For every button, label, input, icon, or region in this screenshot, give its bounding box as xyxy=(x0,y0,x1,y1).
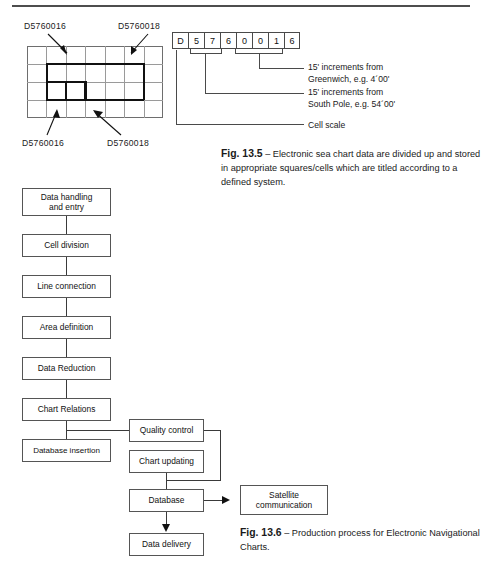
heavy-right-edge xyxy=(143,63,145,100)
arrowhead-to-satellite xyxy=(222,496,230,504)
annotation-southpole: 15' increments from South Pole, e.g. 54´… xyxy=(308,86,395,111)
cell-code-boxes: D 5 7 6 0 0 1 6 xyxy=(172,32,300,49)
flow-node-data-reduction-label: Data Reduction xyxy=(38,363,96,374)
heavy-bottom-edge xyxy=(46,99,143,101)
flow-node-satellite-communication[interactable]: Satellite communication xyxy=(240,485,328,515)
code-char-4: 0 xyxy=(236,32,252,49)
fig-13-6-caption: Fig. 13.6 – Production process for Elect… xyxy=(240,525,480,555)
flow-node-cell-division-label: Cell division xyxy=(44,240,89,251)
flow-node-line-connection[interactable]: Line connection xyxy=(22,275,111,298)
annotation-southpole-line1: 15' increments from xyxy=(308,86,395,98)
callout-leader-bottom-right xyxy=(78,105,148,141)
flow-node-area-definition-label: Area definition xyxy=(40,322,94,333)
connector-1 xyxy=(66,216,67,234)
flow-node-database-insertion-label: Database insertion xyxy=(33,446,100,456)
flow-node-data-handling-label: Data handling and entry xyxy=(41,192,93,213)
flow-node-chart-updating-label: Chart updating xyxy=(139,456,194,467)
connector-to-quality-control xyxy=(66,430,129,431)
code-char-0: D xyxy=(172,32,188,49)
leader-greenwich-horizontal xyxy=(259,68,304,69)
leader-southpole-vertical xyxy=(205,53,206,93)
annotation-greenwich-line1: 15' increments from xyxy=(308,61,389,73)
connector-qc-down xyxy=(220,430,221,480)
leader-cellscale-horizontal xyxy=(176,124,304,125)
annotation-cellscale: Cell scale xyxy=(308,119,345,131)
flow-node-database-insertion[interactable]: Database insertion xyxy=(22,439,111,462)
heavy-inner-divider xyxy=(65,81,67,100)
code-char-3: 6 xyxy=(220,32,236,49)
flow-node-line-connection-label: Line connection xyxy=(37,281,96,292)
flow-node-data-delivery[interactable]: Data delivery xyxy=(129,533,204,556)
connector-qc-right xyxy=(204,430,221,431)
heavy-inner-right xyxy=(84,81,86,100)
code-char-1: 5 xyxy=(188,32,204,49)
annotation-greenwich-line2: Greenwich, e.g. 4´00' xyxy=(308,73,389,85)
code-char-2: 7 xyxy=(204,32,220,49)
flow-node-quality-control-label: Quality control xyxy=(140,425,194,436)
grid-callout-bottom-right-label: D5760018 xyxy=(107,138,149,149)
flow-node-chart-relations-label: Chart Relations xyxy=(38,404,96,415)
fig-13-6-line1: Production process for Electronic xyxy=(292,528,427,538)
code-char-6: 1 xyxy=(268,32,284,49)
flow-label-line2: and entry xyxy=(49,202,84,212)
connector-5 xyxy=(66,380,67,398)
fig-13-5-dash: – xyxy=(265,149,270,159)
flow-satellite-line2: communication xyxy=(256,500,312,510)
connector-4 xyxy=(66,339,67,357)
leader-cellscale-vertical xyxy=(176,50,177,124)
flow-satellite-line1: Satellite xyxy=(269,490,299,500)
grid-callout-top-right-label: D5760018 xyxy=(118,21,160,32)
grid-callout-top-left-label: D5760016 xyxy=(24,21,66,32)
annotation-greenwich: 15' increments from Greenwich, e.g. 4´00… xyxy=(308,61,389,86)
heavy-top-edge xyxy=(46,63,143,65)
connector-qc-into-db xyxy=(166,480,221,481)
code-char-5: 0 xyxy=(252,32,268,49)
bracket-latitude-right-tick xyxy=(221,49,222,54)
fig-13-5-line1: Electronic sea chart data are divided up xyxy=(273,149,434,159)
page-top-rule xyxy=(12,5,470,7)
flow-node-satellite-label: Satellite communication xyxy=(256,490,312,511)
annotation-cellscale-line1: Cell scale xyxy=(308,119,345,131)
fig-13-6-dash: – xyxy=(284,528,289,538)
flow-node-chart-relations[interactable]: Chart Relations xyxy=(22,398,111,421)
connector-2 xyxy=(66,257,67,275)
leader-greenwich-vertical xyxy=(259,53,260,68)
flow-node-database[interactable]: Database xyxy=(129,489,204,512)
bracket-longitude-right-tick xyxy=(282,49,283,54)
flow-node-cell-division[interactable]: Cell division xyxy=(22,234,111,257)
fig-13-6-label: Fig. 13.6 xyxy=(240,527,282,538)
fig-13-5-label: Fig. 13.5 xyxy=(221,148,263,159)
flow-node-data-reduction[interactable]: Data Reduction xyxy=(22,357,111,380)
flow-node-data-delivery-label: Data delivery xyxy=(142,539,191,550)
grid-callout-bottom-left-label: D5760016 xyxy=(22,138,64,149)
flow-label-line1: Data handling xyxy=(41,192,93,202)
annotation-southpole-line2: South Pole, e.g. 54´00' xyxy=(308,98,395,110)
flow-node-data-handling[interactable]: Data handling and entry xyxy=(22,188,111,216)
flow-node-chart-updating[interactable]: Chart updating xyxy=(129,450,204,473)
arrowhead-to-delivery xyxy=(162,524,170,532)
connector-3 xyxy=(66,298,67,316)
connector-cu-down xyxy=(166,473,167,489)
code-char-7: 6 xyxy=(284,32,300,49)
fig-13-5-caption: Fig. 13.5 – Electronic sea chart data ar… xyxy=(221,146,483,189)
flow-node-database-label: Database xyxy=(149,495,185,506)
flow-node-area-definition[interactable]: Area definition xyxy=(22,316,111,339)
connector-db-to-satellite xyxy=(204,500,224,501)
flow-node-quality-control[interactable]: Quality control xyxy=(129,419,204,442)
leader-southpole-horizontal xyxy=(205,93,304,94)
